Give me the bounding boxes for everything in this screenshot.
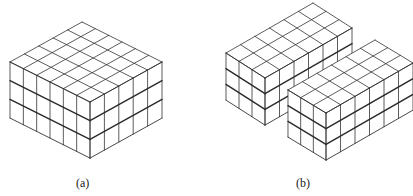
panel-label-b: (b)	[296, 176, 310, 191]
stacked-cubes-diagram	[0, 0, 413, 196]
panel-b	[226, 3, 413, 160]
panel-label-a: (a)	[76, 176, 89, 191]
cube-block	[10, 22, 162, 158]
panel-a	[10, 22, 162, 158]
